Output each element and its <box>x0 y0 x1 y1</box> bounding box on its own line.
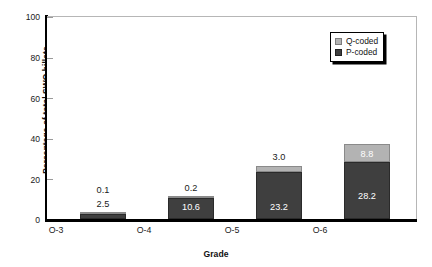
legend-item-p-coded[interactable]: P-coded <box>335 47 378 58</box>
bar-value-q-o5: 3.0 <box>256 153 302 162</box>
bar-value-q-o3: 0.1 <box>80 186 126 195</box>
y-tick-label-0: 0 <box>14 216 40 225</box>
chart-legend: Q-coded P-coded <box>330 32 384 62</box>
legend-item-q-coded[interactable]: Q-coded <box>335 36 378 47</box>
y-tick-mark-60 <box>47 98 53 99</box>
bar-value-p-o4: 10.6 <box>169 203 213 212</box>
y-tick-mark-40 <box>47 139 53 140</box>
bar-value-p-o3: 2.5 <box>80 200 126 209</box>
bar-segment-p-o4[interactable]: 10.6 <box>168 198 214 220</box>
bar-segment-p-o5[interactable]: 23.2 <box>256 172 302 219</box>
y-tick-mark-20 <box>47 179 53 180</box>
legend-label-p-coded: P-coded <box>346 48 377 56</box>
bar-value-p-o5: 23.2 <box>257 203 301 212</box>
x-tick-label-o4: O-4 <box>109 226 179 235</box>
x-axis-title: Grade <box>0 249 432 259</box>
bar-segment-p-o3[interactable] <box>80 214 126 219</box>
y-tick-label-40: 40 <box>14 135 40 144</box>
legend-swatch-q-coded-icon <box>335 38 342 45</box>
chart-container: Percentage of total SWO billets 100 80 6… <box>0 0 432 267</box>
x-tick-label-o5: O-5 <box>197 226 267 235</box>
legend-label-q-coded: Q-coded <box>346 37 378 45</box>
bar-value-q-o4: 0.2 <box>168 184 214 193</box>
bar-value-q-o6: 8.8 <box>345 150 389 159</box>
y-tick-label-60: 60 <box>14 95 40 104</box>
legend-swatch-p-coded-icon <box>335 49 342 56</box>
x-tick-label-o3: O-3 <box>21 226 91 235</box>
bar-value-p-o6: 28.2 <box>345 192 389 201</box>
y-tick-label-80: 80 <box>14 54 40 63</box>
x-axis-line <box>45 219 417 222</box>
x-tick-label-o6: O-6 <box>285 226 355 235</box>
y-tick-label-100: 100 <box>14 13 40 22</box>
y-tick-mark-80 <box>47 58 53 59</box>
y-tick-mark-100 <box>47 17 53 18</box>
bar-segment-q-o6[interactable]: 8.8 <box>344 144 390 162</box>
bar-segment-p-o6[interactable]: 28.2 <box>344 162 390 219</box>
y-tick-label-20: 20 <box>14 176 40 185</box>
